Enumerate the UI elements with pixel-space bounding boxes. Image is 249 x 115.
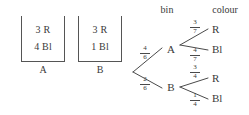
probability-b-blue-denominator: 4	[190, 101, 200, 109]
probability-bin-b: 2 6	[140, 76, 150, 92]
tree-node-a: A	[165, 43, 177, 55]
bin-b-label: B	[78, 64, 122, 75]
tree-leaf-a-red: R	[212, 23, 219, 35]
probability-a-red-denominator: 7	[190, 28, 200, 36]
bin-container-a: 3 R 4 Bl	[21, 16, 65, 62]
tree-header-bin: bin	[150, 4, 184, 15]
bin-a-blue-count: 4 Bl	[22, 38, 64, 55]
bin-a-label: A	[21, 64, 65, 75]
probability-a-blue: 4 7	[190, 47, 200, 63]
probability-a-blue-denominator: 7	[190, 56, 200, 64]
probability-a-red: 3 7	[190, 19, 200, 35]
probability-bin-a-denominator: 6	[140, 54, 150, 62]
tree-leaf-b-blue: Bl	[212, 92, 222, 104]
probability-b-blue: 1 4	[190, 92, 200, 108]
tree-node-b: B	[165, 81, 177, 93]
bin-b-blue-count: 1 Bl	[79, 38, 121, 55]
tree-leaf-a-blue: Bl	[212, 43, 222, 55]
probability-b-red-denominator: 4	[190, 73, 200, 81]
tree-leaf-b-red: R	[212, 72, 219, 84]
probability-b-red: 3 4	[190, 64, 200, 80]
bin-container-b: 3 R 1 Bl	[78, 16, 122, 62]
bin-b-red-count: 3 R	[79, 21, 121, 38]
tree-header-colour: colour	[204, 4, 246, 15]
probability-bin-b-denominator: 6	[140, 85, 150, 93]
bin-a-contents: 3 R 4 Bl	[22, 21, 64, 55]
bin-b-contents: 3 R 1 Bl	[79, 21, 121, 55]
probability-bin-a: 4 6	[140, 45, 150, 61]
probability-tree-figure: 3 R 4 Bl A 3 R 1 Bl B bin colour A B	[0, 0, 249, 115]
bin-a-red-count: 3 R	[22, 21, 64, 38]
